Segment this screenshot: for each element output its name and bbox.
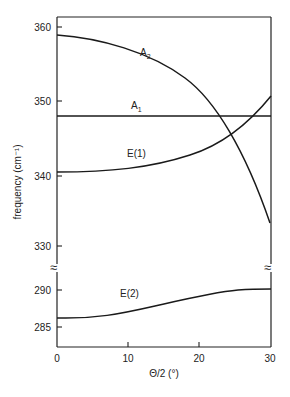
y-tick-290: 290 xyxy=(34,285,51,296)
y-tick-360: 360 xyxy=(34,22,51,33)
x-tick-10: 10 xyxy=(122,353,134,364)
curves xyxy=(57,35,271,318)
axis-break-right: ≈ xyxy=(264,260,271,275)
curve-labels: A2 A1 E(1) E(2) xyxy=(120,47,151,299)
label-a1: A1 xyxy=(131,100,142,113)
y-tick-330: 330 xyxy=(34,241,51,252)
y-tick-350: 350 xyxy=(34,96,51,107)
x-tick-20: 20 xyxy=(193,353,205,364)
svg-text:≈: ≈ xyxy=(264,260,271,275)
curve-e2 xyxy=(57,289,271,318)
x-ticks xyxy=(128,342,199,347)
frequency-chart: ≈ ≈ 360 350 340 330 290 285 0 10 20 30 Θ… xyxy=(0,0,290,397)
x-axis-title: Θ/2 (°) xyxy=(149,368,179,379)
x-tick-30: 30 xyxy=(264,353,276,364)
y-tick-labels: 360 350 340 330 290 285 xyxy=(34,22,51,333)
curve-e1 xyxy=(57,96,271,172)
axis-break-left: ≈ xyxy=(50,260,57,275)
y-tick-340: 340 xyxy=(34,171,51,182)
svg-text:≈: ≈ xyxy=(50,260,57,275)
label-e2: E(2) xyxy=(120,288,139,299)
label-a2: A2 xyxy=(140,47,151,60)
plot-frame xyxy=(57,17,271,347)
y-axis-title: frequency (cm⁻¹) xyxy=(12,144,23,219)
x-tick-0: 0 xyxy=(54,353,60,364)
y-ticks xyxy=(57,27,62,327)
y-tick-285: 285 xyxy=(34,322,51,333)
label-e1: E(1) xyxy=(127,148,146,159)
x-tick-labels: 0 10 20 30 xyxy=(54,353,276,364)
